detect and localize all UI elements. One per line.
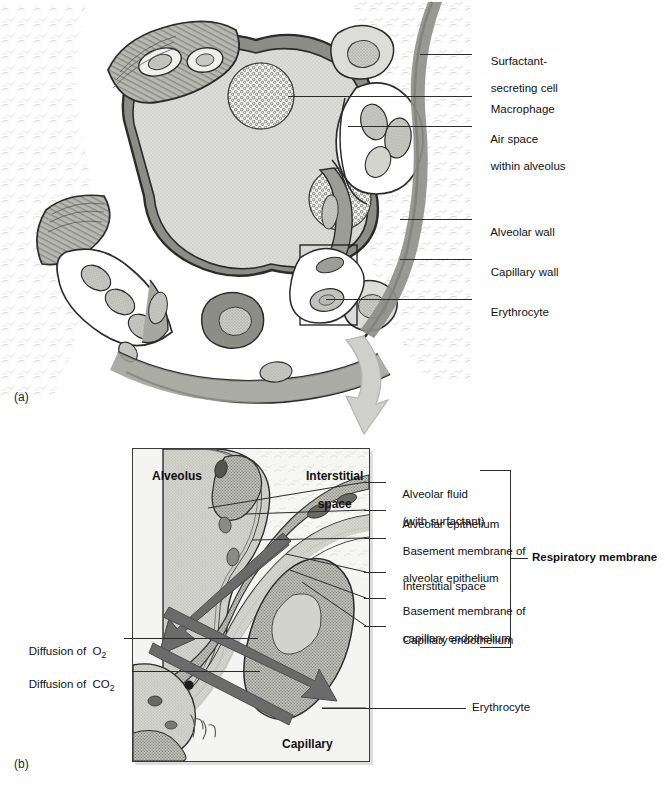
inset-label-capillary: Capillary — [282, 738, 333, 752]
leader-stub-bm-alveolar — [364, 538, 386, 539]
label-surfactant-line1: Surfactant- — [491, 55, 547, 67]
label-erythrocyte-a-text: Erythrocyte — [491, 306, 549, 318]
leader-erythrocyte-a — [326, 299, 472, 300]
label-diffusion-co2-sub: 2 — [110, 683, 115, 693]
leader-stub-capillary-endothelium — [364, 626, 386, 627]
label-capillary-wall: Capillary wall — [478, 252, 559, 293]
label-erythrocyte-b: Erythrocyte — [472, 701, 530, 715]
leader-airspace — [348, 126, 472, 127]
callout-arrow-a-to-b — [300, 330, 420, 450]
panel-b-tag: (b) — [14, 757, 29, 771]
leader-alveolar-wall — [400, 219, 472, 220]
leader-stub-bm-capillary — [364, 598, 386, 599]
label-interstitial-space-text: Interstitial space — [403, 580, 486, 592]
label-airspace-line2: within alveolus — [491, 160, 566, 172]
label-diffusion-co2-text: Diffusion of CO — [29, 678, 110, 690]
leader-macrophage — [288, 96, 472, 97]
label-diffusion-o2-sub: 2 — [101, 650, 106, 660]
leader-respiratory-membrane — [510, 558, 528, 559]
label-capillary-wall-text: Capillary wall — [491, 266, 559, 278]
leader-stub-alveolar-fluid — [364, 482, 386, 483]
panel-a-tag: (a) — [14, 390, 29, 404]
label-alveolar-fluid-line1: Alveolar fluid — [402, 488, 468, 500]
label-erythrocyte-a: Erythrocyte — [478, 292, 549, 333]
label-diffusion-o2-text: Diffusion of O — [29, 645, 102, 657]
leader-stub-interstitial — [364, 572, 386, 573]
leader-capillary-wall — [400, 259, 472, 260]
panel-b-leader-lines — [190, 470, 390, 730]
leader-surfactant — [420, 54, 472, 55]
label-respiratory-membrane: Respiratory membrane — [532, 551, 657, 565]
figure-alveolus-respiratory-membrane: Surfactant- secreting cell Macrophage Ai… — [0, 0, 665, 788]
label-alveolar-wall: Alveolar wall — [478, 212, 555, 253]
label-air-space-within-alveolus: Air space within alveolus — [478, 119, 566, 187]
label-airspace-line1: Air space — [490, 133, 538, 145]
leader-stub-alveolar-epithelium — [364, 510, 386, 511]
label-alveolar-wall-text: Alveolar wall — [490, 226, 555, 238]
label-macrophage-text: Macrophage — [491, 103, 555, 115]
leader-erythrocyte-b — [322, 708, 466, 709]
respiratory-membrane-bracket — [480, 470, 511, 648]
label-diffusion-co2: Diffusion of CO2 — [16, 664, 114, 706]
